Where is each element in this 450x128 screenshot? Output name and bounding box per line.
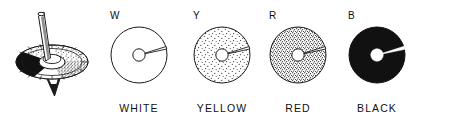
disc-black: B BLACK [348, 10, 405, 114]
disc-red-caption: RED [285, 102, 310, 114]
disc-letter-r: R [269, 10, 276, 21]
disc-black-caption: BLACK [357, 102, 397, 114]
disc-black-hub [371, 49, 383, 61]
spinning-top-illustration [10, 12, 92, 96]
disc-yellow-caption: YELLOW [197, 102, 247, 114]
disc-letter-b: B [348, 10, 355, 21]
disc-yellow: Y YELLOW [193, 10, 250, 114]
disc-letter-w: W [110, 10, 120, 21]
figure-spinning-top-discs: W WHITE Y YELLOW R RED B B [0, 0, 450, 128]
disc-white: W WHITE [110, 10, 167, 114]
figure-canvas: W WHITE Y YELLOW R RED B B [0, 0, 450, 128]
disc-white-caption: WHITE [119, 102, 158, 114]
disc-yellow-hub [216, 49, 228, 61]
disc-white-hub [133, 49, 145, 61]
disc-red-hub [292, 49, 304, 61]
disc-letter-y: Y [193, 10, 200, 21]
disc-red: R RED [269, 10, 326, 114]
center-hub [39, 54, 65, 69]
